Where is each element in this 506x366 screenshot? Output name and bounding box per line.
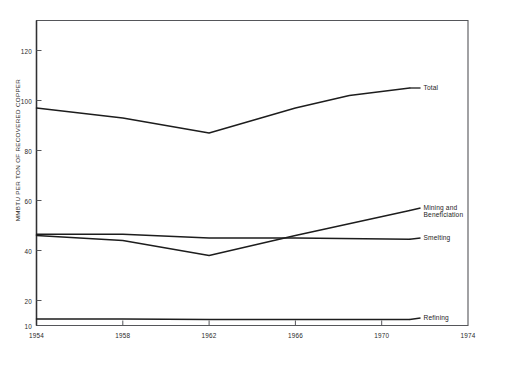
series-line (37, 88, 410, 133)
x-tick-label: 1954 (29, 332, 44, 339)
x-tick-label: 1958 (115, 332, 130, 339)
chart-tick-marks (37, 51, 382, 326)
x-tick-label: 1970 (374, 332, 389, 339)
series-label-leader (410, 208, 421, 211)
chart-figure: MMBTU PER TON OF RECOVERED COPPER 102040… (0, 0, 506, 366)
chart-axes (37, 21, 469, 326)
series-label-3: Refining (424, 314, 449, 322)
y-tick-label: 20 (8, 297, 32, 304)
series-line (37, 319, 410, 320)
y-tick-label: 10 (8, 322, 32, 329)
chart-plot-area (0, 0, 506, 366)
series-label-1: Mining and Beneficiation (424, 204, 464, 219)
chart-series-lines (37, 88, 410, 320)
series-label-2: Smelting (424, 234, 451, 242)
x-tick-label: 1962 (202, 332, 217, 339)
series-label-leader (410, 318, 421, 320)
series-label-leader (410, 238, 421, 239)
y-tick-label: 120 (8, 47, 32, 54)
x-tick-label: 1974 (460, 332, 475, 339)
y-tick-label: 80 (8, 147, 32, 154)
series-label-0: Total (424, 84, 439, 92)
y-tick-label: 40 (8, 247, 32, 254)
chart-label-leaders (410, 88, 421, 320)
y-tick-label: 60 (8, 197, 32, 204)
series-line (37, 211, 410, 256)
x-tick-label: 1966 (288, 332, 303, 339)
y-tick-label: 100 (8, 97, 32, 104)
